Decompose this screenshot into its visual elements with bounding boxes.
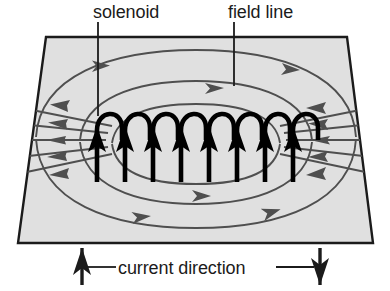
current-direction-group: current direction [73, 248, 329, 285]
diagram-canvas: solenoid field line current direction [0, 0, 390, 291]
solenoid-label: solenoid [93, 2, 159, 22]
current-direction-label: current direction [118, 258, 245, 278]
solenoid-field-diagram: solenoid field line current direction [0, 0, 390, 291]
field-line-label: field line [228, 2, 293, 22]
